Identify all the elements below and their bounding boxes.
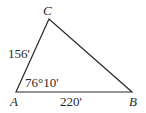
angle-label-a: 76°10' — [25, 75, 59, 90]
vertex-label-b: B — [129, 94, 137, 109]
side-label-ab: 220' — [60, 94, 82, 109]
vertex-label-a: A — [9, 94, 18, 109]
triangle-diagram: C A B 156' 220' 76°10' — [0, 0, 146, 113]
side-label-ac: 156' — [8, 46, 30, 61]
vertex-label-c: C — [43, 3, 52, 18]
